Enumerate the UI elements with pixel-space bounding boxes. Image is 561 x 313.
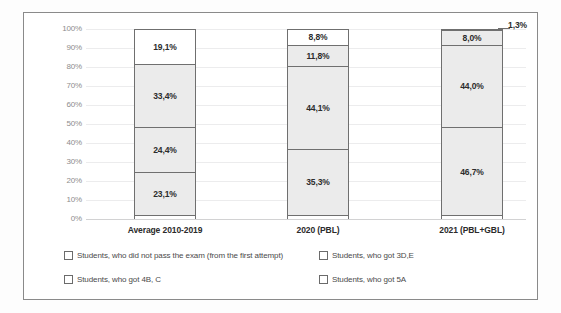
y-axis-tick-label: 10% <box>38 196 82 204</box>
bar-segment-label: 8,0% <box>463 33 482 43</box>
chart-page: 100%90%80%70%60%50%40%30%20%10%0% 19,1%3… <box>0 0 561 313</box>
y-axis-tick-label: 100% <box>38 25 82 33</box>
bar-2[interactable]: 8,8%11,8%44,1%35,3% <box>287 29 349 219</box>
bar-segment[interactable]: 46,7% <box>442 127 502 216</box>
legend-swatch-icon <box>64 251 73 260</box>
bar-segment[interactable]: 8,8% <box>288 29 348 46</box>
y-axis-tick-label: 70% <box>38 82 82 90</box>
bar-segment-label: 44,0% <box>460 81 484 91</box>
legend-label: Students, who did not pass the exam (fro… <box>77 251 283 260</box>
y-axis-tick-label: 30% <box>38 158 82 166</box>
bar-segment-label: 33,4% <box>153 91 177 101</box>
bar-segment[interactable]: 33,4% <box>135 64 195 127</box>
bar-segment-label: 11,8% <box>306 51 329 61</box>
bar-1[interactable]: 19,1%33,4%24,4%23,1% <box>134 29 196 219</box>
legend-item-4bc[interactable]: Students, who got 4B, C <box>64 275 319 284</box>
bar-segment-label: 44,1% <box>306 103 330 113</box>
bar-segment[interactable]: 19,1% <box>135 29 195 65</box>
y-axis-tick-label: 90% <box>38 44 82 52</box>
bar-segment[interactable]: 8,0% <box>442 30 502 45</box>
gridline <box>86 219 526 220</box>
chart-frame: 100%90%80%70%60%50%40%30%20%10%0% 19,1%3… <box>23 12 538 300</box>
legend-label: Students, who got 5A <box>332 275 406 284</box>
y-axis-tick-label: 60% <box>38 101 82 109</box>
bar-3[interactable]: 1,3%8,0%44,0%46,7% <box>441 29 503 219</box>
y-axis-tick-label: 80% <box>38 63 82 71</box>
legend-swatch-icon <box>64 275 73 284</box>
bar-segment[interactable]: 44,0% <box>442 45 502 129</box>
x-axis-category-label: Average 2010-2019 <box>85 225 245 235</box>
x-axis-category-label: 2021 (PBL+GBL) <box>392 225 552 235</box>
legend-row: Students, who did not pass the exam (fro… <box>64 243 524 267</box>
legend-swatch-icon <box>319 251 328 260</box>
legend-item-5a[interactable]: Students, who got 5A <box>319 275 519 284</box>
legend-item-3de[interactable]: Students, who got 3D,E <box>319 251 519 260</box>
y-axis-tick-label: 20% <box>38 177 82 185</box>
bar-segment-label: 1,3% <box>508 20 527 30</box>
bar-segment-label: 46,7% <box>460 167 484 177</box>
legend-label: Students, who got 4B, C <box>77 275 161 284</box>
bar-segment[interactable]: 24,4% <box>135 127 195 173</box>
bar-segment[interactable]: 44,1% <box>288 66 348 150</box>
y-axis: 100%90%80%70%60%50%40%30%20%10%0% <box>36 29 82 219</box>
bar-segment-label: 19,1% <box>153 42 177 52</box>
x-axis-category-label: 2020 (PBL) <box>238 225 398 235</box>
legend-label: Students, who got 3D,E <box>332 251 414 260</box>
bar-segment-label: 35,3% <box>306 177 330 187</box>
legend-item-not-passed[interactable]: Students, who did not pass the exam (fro… <box>64 251 319 260</box>
bar-segment[interactable]: 35,3% <box>288 149 348 216</box>
y-axis-tick-label: 50% <box>38 120 82 128</box>
bar-segment-label: 24,4% <box>153 145 177 155</box>
y-axis-tick-label: 0% <box>38 215 82 223</box>
bar-segment-label: 8,8% <box>309 32 328 42</box>
y-axis-tick-label: 40% <box>38 139 82 147</box>
bar-segment[interactable]: 23,1% <box>135 172 195 216</box>
bar-segment[interactable]: 11,8% <box>288 45 348 67</box>
bar-segment-label: 23,1% <box>153 189 177 199</box>
legend-swatch-icon <box>319 275 328 284</box>
chart-legend: Students, who did not pass the exam (fro… <box>64 243 524 291</box>
plot-area: 19,1%33,4%24,4%23,1%Average 2010-20198,8… <box>86 29 526 219</box>
legend-row: Students, who got 4B, C Students, who go… <box>64 267 524 291</box>
